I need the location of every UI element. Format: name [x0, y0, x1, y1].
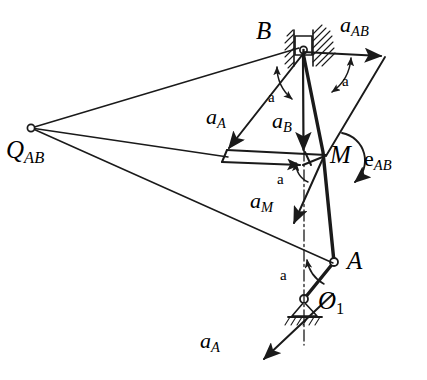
angular-label-e-AB-base: e [364, 146, 374, 171]
angle-label-alpha-B-left: a [268, 90, 275, 105]
point-label-B: B [256, 18, 271, 43]
vector-label-a-B-mid-sub: B [283, 119, 292, 135]
vector-label-a-A-bottom-sub: A [211, 339, 220, 355]
point-label-M: M [330, 142, 351, 167]
vector-label-a-AB-sub: AB [351, 23, 369, 39]
point-label-QAB: QAB [6, 137, 45, 162]
angular-label-e-AB: eAB [364, 148, 392, 170]
pole-rays [31, 48, 333, 263]
vector-label-a-M-sub: M [261, 199, 273, 215]
diagram-canvas [0, 0, 427, 380]
angle-label-alpha-B-right: a [342, 74, 349, 89]
vector-label-a-B-mid-base: a [272, 108, 283, 133]
vector-label-a-A-bottom: aA [200, 330, 220, 352]
vector-label-a-A-mid-base: a [206, 104, 217, 129]
angle-label-alpha-M: a [277, 172, 284, 187]
pole-marker-QAB [27, 124, 34, 131]
vector-label-a-A-mid-sub: A [217, 115, 226, 131]
point-label-O1-base: O [318, 287, 336, 314]
angle-arc-O1 [307, 260, 324, 284]
vector-label-a-M: aM [250, 190, 273, 212]
vector-label-a-A-bottom-base: a [200, 328, 211, 353]
slider-guide-at-B [285, 25, 335, 68]
vector-label-a-B-mid: aB [272, 110, 292, 132]
acceleration-polygon [222, 150, 326, 165]
point-label-O1-sub: 1 [336, 299, 344, 318]
point-label-QAB-sub: AB [24, 148, 45, 167]
vector-label-a-A-mid: aA [206, 106, 226, 128]
acceleration-diagram-figure: B M A O1 QAB aAB aA aB aM aA eAB a a a a [0, 0, 427, 380]
vector-a-B-mid [303, 57, 304, 150]
vector-label-a-AB-base: a [340, 12, 351, 37]
angular-label-e-AB-sub: AB [374, 157, 392, 173]
vector-a-M [294, 156, 324, 223]
point-label-QAB-base: Q [6, 136, 24, 163]
angle-label-alpha-O1: a [280, 268, 287, 283]
point-label-O1: O1 [318, 288, 344, 313]
vector-label-a-AB: aAB [340, 14, 369, 36]
vector-label-a-M-base: a [250, 188, 261, 213]
point-label-A: A [347, 248, 362, 273]
